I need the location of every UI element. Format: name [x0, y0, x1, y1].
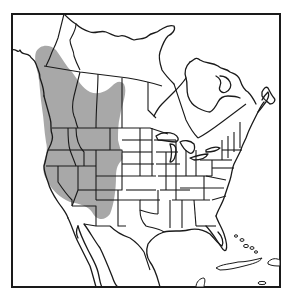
caribbean-islands [196, 235, 280, 287]
north-america-range-map [0, 0, 290, 295]
